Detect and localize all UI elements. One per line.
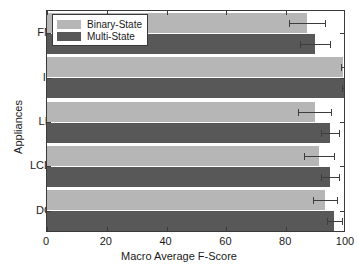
x-tick-label-100: 100 [336,235,354,247]
x-tick-mark-60-bottom [226,227,227,231]
legend-entry-binary-state: Binary-State [57,18,142,30]
legend-swatch-multi-state [57,32,81,41]
y-tick-mark-dc-left [47,211,51,212]
error-bar-dc-binary [313,200,337,201]
error-cap-fn-multi-lower [300,41,301,48]
error-cap-dc-binary-upper [337,197,338,204]
x-tick-label-60: 60 [219,235,231,247]
bar-lcd-binary-state [47,146,319,166]
bar-il-multi-state [47,78,344,98]
plot-area: Binary-State Multi-State [46,10,345,232]
error-cap-lp-binary-lower [298,109,299,116]
error-cap-il-multi-lower [342,85,343,92]
x-tick-mark-80-bottom [286,227,287,231]
error-cap-lcd-multi-lower [321,174,322,181]
error-cap-lp-multi-upper [339,130,340,137]
legend-label-binary-state: Binary-State [87,19,142,30]
error-cap-fn-multi-upper [330,41,331,48]
x-tick-mark-0-bottom [47,227,48,231]
error-cap-fn-binary-lower [289,20,290,27]
x-tick-mark-60-top [226,11,227,15]
error-bar-lcd-multi [321,177,339,178]
x-tick-label-0: 0 [43,235,49,247]
y-tick-mark-lcd-right [340,166,344,167]
x-tick-mark-40-bottom [167,227,168,231]
legend-entry-multi-state: Multi-State [57,30,142,42]
x-tick-label-20: 20 [100,235,112,247]
error-cap-lp-multi-lower [321,130,322,137]
error-bar-fn-binary [289,23,325,24]
y-tick-mark-il-right [340,78,344,79]
error-cap-il-binary-lower [341,64,342,71]
y-axis-title: Appliances [12,16,24,238]
x-tick-mark-80-top [286,11,287,15]
bar-dc-binary-state [47,190,325,210]
chart-figure: Appliances FNILLPLCDDC Binary-State Mult… [0,0,358,269]
error-bar-lp-multi [321,133,339,134]
bar-lcd-multi-state [47,167,330,187]
x-tick-mark-40-top [167,11,168,15]
y-tick-mark-lcd-left [47,166,51,167]
x-tick-label-80: 80 [279,235,291,247]
bar-lp-multi-state [47,123,330,143]
y-tick-mark-lp-right [340,122,344,123]
legend-label-multi-state: Multi-State [87,31,135,42]
error-cap-lcd-binary-upper [334,153,335,160]
x-tick-mark-0-top [47,11,48,15]
error-cap-lp-binary-upper [331,109,332,116]
bar-lp-binary-state [47,102,315,122]
error-bar-fn-multi [300,44,330,45]
legend-swatch-binary-state [57,20,81,29]
error-cap-lcd-multi-upper [339,174,340,181]
y-tick-mark-fn-right [340,33,344,34]
error-bar-lp-binary [298,112,331,113]
y-tick-mark-il-left [47,78,51,79]
error-cap-dc-binary-lower [313,197,314,204]
error-bar-dc-multi [327,221,342,222]
error-bar-lcd-binary [304,156,334,157]
legend: Binary-State Multi-State [52,14,148,46]
bar-il-binary-state [47,57,343,77]
error-cap-dc-multi-upper [342,218,343,225]
x-tick-label-40: 40 [159,235,171,247]
y-tick-mark-lp-left [47,122,51,123]
x-axis-title: Macro Average F-Score [0,250,358,262]
error-cap-lcd-binary-lower [304,153,305,160]
error-cap-dc-multi-lower [327,218,328,225]
y-tick-mark-dc-right [340,211,344,212]
bar-dc-multi-state [47,211,334,231]
x-tick-mark-20-bottom [107,227,108,231]
y-tick-mark-fn-left [47,33,51,34]
error-cap-fn-binary-upper [325,20,326,27]
